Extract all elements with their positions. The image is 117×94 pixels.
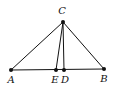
label-c: C xyxy=(58,5,66,16)
geometry-diagram: A B C D E xyxy=(0,0,117,94)
label-a: A xyxy=(6,74,14,85)
segment-ac xyxy=(11,22,63,70)
label-b: B xyxy=(99,73,107,84)
segment-bc xyxy=(63,22,104,69)
segment-ce xyxy=(56,22,63,70)
point-b xyxy=(102,67,106,71)
point-c xyxy=(61,20,65,24)
segment-cd xyxy=(63,22,64,70)
label-d: D xyxy=(60,74,69,85)
point-a xyxy=(9,68,13,72)
point-e xyxy=(54,68,58,72)
point-d xyxy=(62,68,66,72)
label-e: E xyxy=(50,74,59,85)
